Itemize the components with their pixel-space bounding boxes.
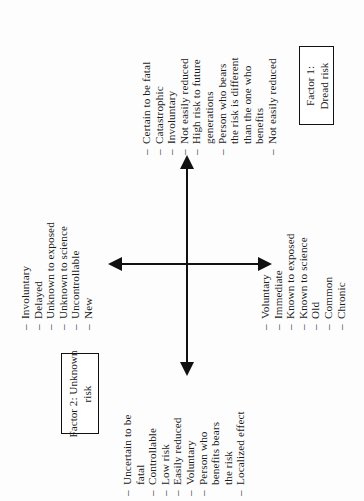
list-item: generations (203, 57, 216, 155)
list-item: Controllable (146, 411, 159, 496)
unknown-high-list: Involuntary Delayed Unknown to exposed U… (19, 222, 95, 330)
list-item: Person who bears (216, 57, 229, 155)
unknown-risk-low-arrow-icon (180, 155, 194, 169)
dread-risk-high-arrow-icon (108, 257, 122, 271)
list-item: Involuntary (19, 222, 32, 330)
list-item: High risk to future (190, 57, 203, 155)
list-item: the risk is different (228, 57, 241, 155)
list-item: Common (322, 234, 335, 331)
list-item: Unknown to exposed (44, 222, 57, 330)
factor-2-box: Factor 2: Unknown risk (61, 353, 99, 434)
factor-2-line-2: risk (80, 350, 94, 437)
list-item: Known to exposed (284, 234, 297, 331)
list-item: Uncertain to be (121, 411, 134, 496)
list-item: Localized effect (234, 411, 247, 496)
list-item: Person who (197, 411, 210, 496)
list-item: Low risk (159, 411, 172, 496)
dread-high-list: Certain to be fatal Catastrophic Involun… (140, 57, 279, 155)
list-item: Certain to be fatal (140, 57, 153, 155)
list-item: Uncontrollable (69, 222, 82, 330)
label-group-dread-high: Certain to be fatal Catastrophic Involun… (140, 57, 279, 155)
factor-1-box-text: Factor 1: Dread risk (303, 62, 330, 109)
factor-1-line-2: Dread risk (317, 62, 331, 109)
list-item: Easily reduced (171, 411, 184, 496)
list-item: Old (309, 234, 322, 331)
label-group-dread-low: Uncertain to be fatal Controllable Low r… (121, 411, 247, 496)
list-item: the risk (222, 411, 235, 496)
list-item: Involuntary (165, 57, 178, 155)
list-item: Not easily reduced (178, 57, 191, 155)
label-group-unknown-low: Voluntary Immediate Known to exposed Kno… (259, 234, 347, 331)
dread-risk-axis-line (119, 263, 262, 265)
label-group-unknown-high: Involuntary Delayed Unknown to exposed U… (19, 222, 95, 330)
unknown-risk-axis-line (186, 166, 188, 364)
list-item: Known to science (297, 234, 310, 331)
list-item: Voluntary (184, 411, 197, 496)
unknown-low-list: Voluntary Immediate Known to exposed Kno… (259, 234, 347, 331)
factor-1-line-1: Factor 1: (303, 62, 317, 109)
factor-1-box: Factor 1: Dread risk (299, 46, 334, 125)
factor-2-line-1: Factor 2: Unknown (67, 350, 81, 437)
list-item: Chronic (335, 234, 348, 331)
list-item: Delayed (32, 222, 45, 330)
factor-2-box-text: Factor 2: Unknown risk (67, 350, 94, 437)
list-item: fatal (134, 411, 147, 496)
list-item: Voluntary (259, 234, 272, 331)
unknown-risk-high-arrow-icon (180, 362, 194, 376)
list-item: benefits (253, 57, 266, 155)
list-item: Not easily reduced (266, 57, 279, 155)
risk-factor-diagram: Certain to be fatal Catastrophic Involun… (0, 0, 364, 501)
list-item: Catastrophic (153, 57, 166, 155)
dread-low-list: Uncertain to be fatal Controllable Low r… (121, 411, 247, 496)
list-item: than the one who (241, 57, 254, 155)
list-item: Immediate (272, 234, 285, 331)
list-item: benefits bears (209, 411, 222, 496)
list-item: New (82, 222, 95, 330)
list-item: Unknown to science (57, 222, 70, 330)
